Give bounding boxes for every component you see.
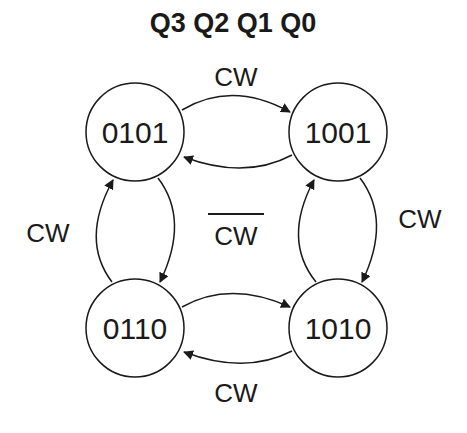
edge-1010-to-1001 xyxy=(298,180,316,282)
diagram-title: Q3 Q2 Q1 Q0 xyxy=(150,8,317,38)
state-diagram: Q3 Q2 Q1 Q0 0101 1001 0110 1010 CW CW CW… xyxy=(0,0,467,433)
state-0110: 0110 xyxy=(86,279,184,377)
label-right-cw: CW xyxy=(398,204,442,234)
state-label: 1001 xyxy=(305,116,372,149)
state-label: 1010 xyxy=(305,312,372,345)
label-center-cw-bar: CW xyxy=(214,221,258,251)
edge-1010-to-0110 xyxy=(184,351,292,363)
edge-1001-to-0101 xyxy=(184,155,292,168)
label-left-cw: CW xyxy=(26,218,70,248)
state-1001: 1001 xyxy=(289,83,387,181)
edge-0101-to-0110 xyxy=(158,178,175,282)
state-1010: 1010 xyxy=(289,279,387,377)
label-top-cw: CW xyxy=(214,62,258,92)
edge-0110-to-1010 xyxy=(182,294,290,308)
edge-0110-to-0101 xyxy=(96,180,113,282)
state-0101: 0101 xyxy=(86,83,184,181)
edge-0101-to-1001 xyxy=(182,95,290,112)
label-bottom-cw: CW xyxy=(214,378,258,408)
edge-1001-to-1010 xyxy=(360,178,377,282)
state-label: 0110 xyxy=(103,312,168,345)
state-label: 0101 xyxy=(102,116,169,149)
